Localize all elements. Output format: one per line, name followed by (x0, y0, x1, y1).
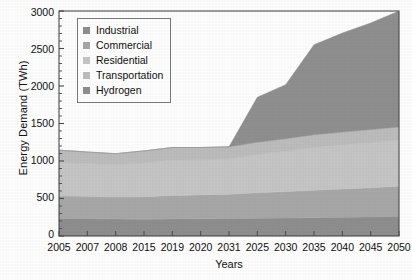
legend-swatch-industrial (83, 27, 90, 34)
plot-area (0, 0, 412, 280)
legend-item-residential: Residential (83, 53, 163, 68)
x-axis-title: Years (59, 258, 399, 270)
x-axis-tick-labels: 2005200720082015201920202031202520302035… (0, 240, 412, 256)
legend-swatch-commercial (83, 42, 90, 49)
legend-label-commercial: Commercial (96, 40, 152, 51)
legend-label-industrial: Industrial (96, 25, 139, 36)
legend-swatch-hydrogen (83, 87, 90, 94)
legend-swatch-transportation (83, 72, 90, 79)
legend-item-commercial: Commercial (83, 38, 163, 53)
x-tick-label-12: 2050 (382, 242, 412, 253)
legend-item-industrial: Industrial (83, 23, 163, 38)
legend-item-transportation: Transportation (83, 68, 163, 83)
chart-legend: Industrial Commercial Residential Transp… (77, 18, 171, 103)
energy-demand-area-chart: Energy Demand (TWh) 3000 2500 2000 1500 … (0, 0, 412, 280)
legend-label-hydrogen: Hydrogen (96, 85, 142, 96)
legend-item-hydrogen: Hydrogen (83, 83, 163, 98)
legend-swatch-residential (83, 57, 90, 64)
legend-label-residential: Residential (96, 55, 148, 66)
legend-label-transportation: Transportation (96, 70, 163, 81)
